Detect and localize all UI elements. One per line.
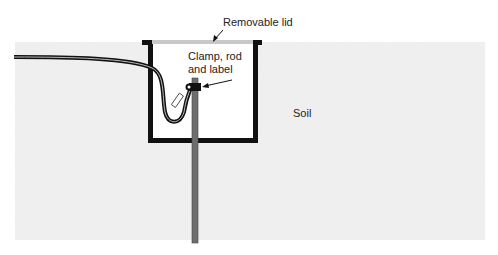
clamp-label-line2: and label: [188, 63, 233, 76]
soil-label: Soil: [293, 107, 311, 120]
clamp: [186, 83, 202, 91]
clamp-label-line1: Clamp, rod: [188, 50, 242, 63]
ground-rod: [192, 78, 198, 243]
lid-label: Removable lid: [223, 16, 293, 29]
removable-lid: [152, 40, 253, 44]
diagram-canvas: [0, 0, 498, 255]
